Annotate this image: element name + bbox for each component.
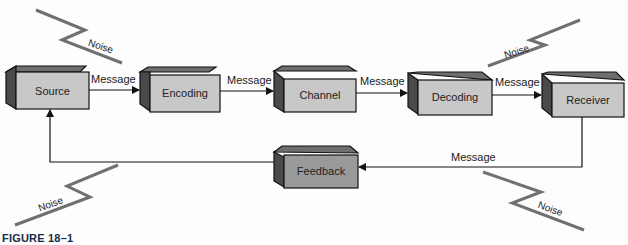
channel-label: Channel [284,90,356,101]
message-label: Message [360,76,405,87]
diagram-canvas [0,0,628,245]
message-label: Message [91,74,136,85]
decoding-label: Decoding [418,92,492,103]
noise-zigzag-top-right [488,20,580,66]
feedback-label: Feedback [284,166,358,177]
noise-zigzag-bottom-left [15,165,118,225]
message-label: Message [227,75,272,86]
noise-zigzag-top-left [36,10,122,63]
receiver-label: Receiver [552,95,624,106]
arrow-feedback-source [50,110,274,162]
message-label: Message [451,152,496,163]
message-label: Message [495,77,540,88]
figure-caption: FIGURE 18–1 [2,232,73,244]
encoding-label: Encoding [150,88,220,99]
noise-zigzag-bottom-right [483,172,584,230]
source-label: Source [16,86,89,97]
